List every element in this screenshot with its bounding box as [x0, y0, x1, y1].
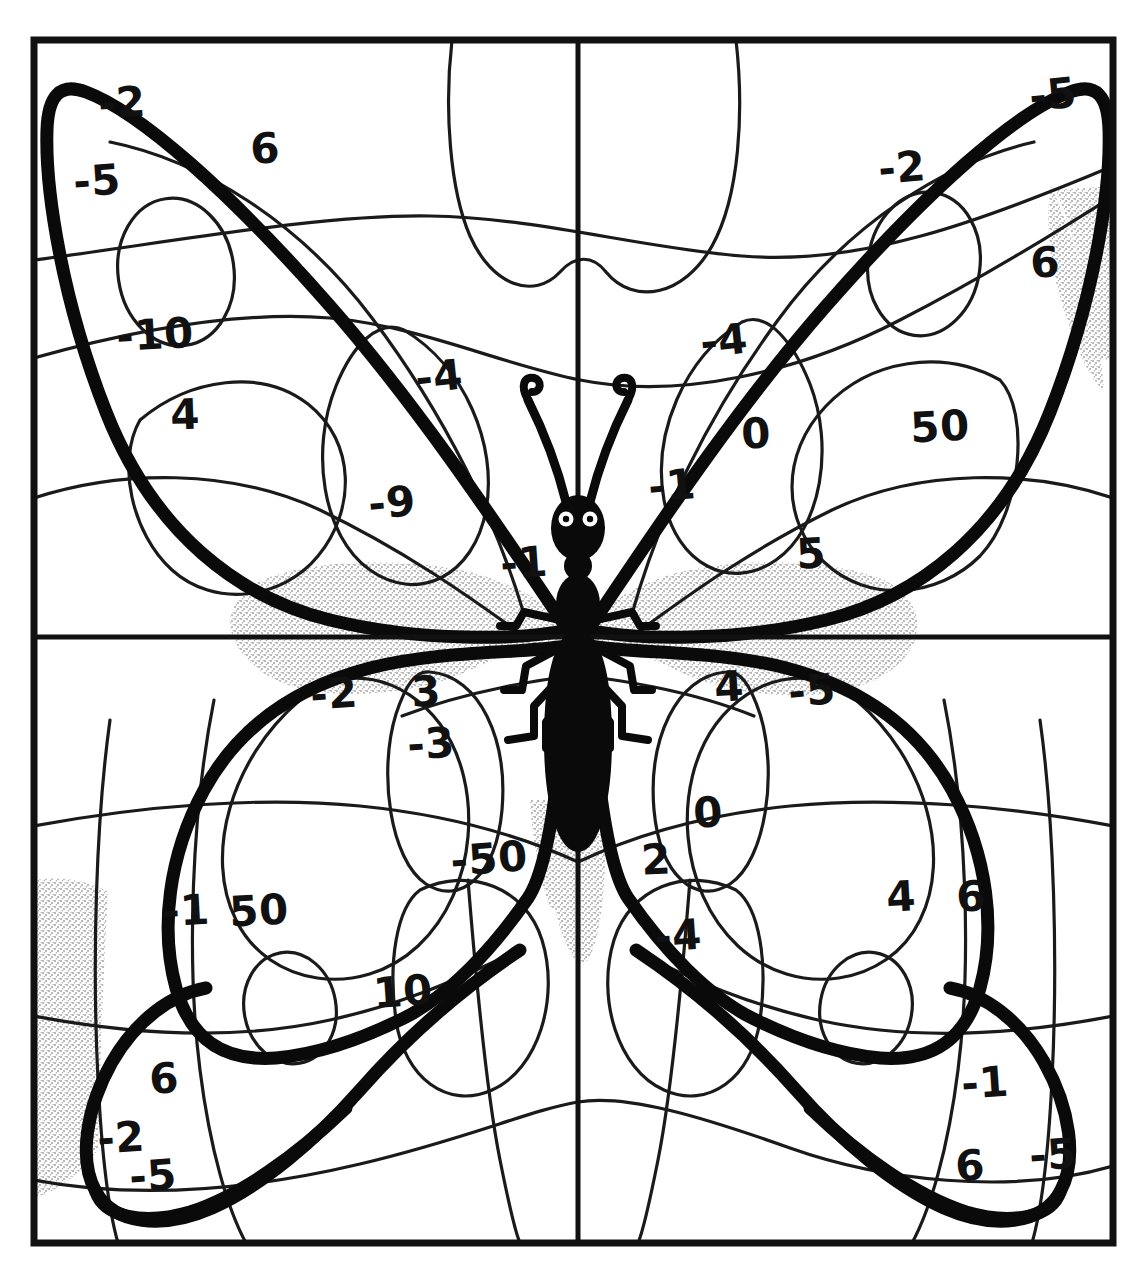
region-number-label: -2: [876, 145, 927, 191]
region-number-label: -1: [960, 1060, 1010, 1105]
region-number-label: -5: [786, 668, 837, 714]
region-number-label: 0: [692, 791, 724, 834]
region-number-label: -5: [128, 1153, 178, 1198]
region-number-label: 6: [955, 875, 987, 918]
region-number-label: -4: [698, 318, 750, 365]
region-number-label: -3: [406, 721, 456, 766]
region-number-label: -4: [413, 354, 465, 401]
region-number-label: 6: [148, 1057, 180, 1100]
region-number-label: 0: [740, 412, 772, 455]
region-number-label: -1: [161, 889, 211, 933]
worksheet-page: -26-5-104-4-9-1-5-26-4050-15-23-3-50-150…: [0, 0, 1144, 1272]
region-number-label: 6: [1029, 241, 1061, 284]
region-number-label: -2: [309, 671, 359, 716]
region-number-label: 3: [410, 670, 442, 713]
region-number-label: -4: [653, 913, 703, 958]
region-number-label: 50: [228, 888, 290, 933]
region-number-label: 4: [713, 665, 745, 708]
region-number-label: -5: [1028, 1132, 1078, 1177]
region-number-label: -1: [499, 540, 549, 585]
region-number-label: 10: [372, 969, 434, 1015]
region-number-label: -5: [72, 158, 122, 203]
region-number-label: -50: [449, 835, 529, 882]
region-number-label: -10: [115, 312, 194, 358]
region-number-label: 4: [169, 393, 200, 436]
region-number-label: 2: [640, 838, 672, 881]
region-number-label: 4: [885, 875, 917, 918]
region-number-label: 5: [795, 532, 827, 575]
region-number-label: -9: [366, 480, 417, 526]
region-number-label: 6: [954, 1144, 986, 1187]
region-number-label: -1: [646, 463, 697, 509]
region-number-label: 6: [249, 127, 281, 170]
region-number-label: -5: [1027, 72, 1079, 119]
region-number-label: -2: [97, 80, 147, 125]
region-number-label: 50: [909, 404, 971, 449]
